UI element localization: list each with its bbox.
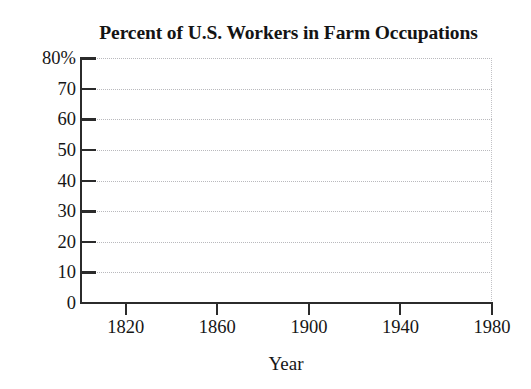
y-axis-tick-label: 60 [2, 110, 76, 129]
y-axis-tick [82, 149, 96, 152]
y-axis-tick [82, 180, 96, 183]
y-axis-tick [82, 271, 96, 274]
gridline [80, 58, 492, 59]
x-axis-title: Year [80, 353, 492, 375]
gridline [80, 242, 492, 243]
x-axis-tick [125, 304, 127, 315]
y-axis-tick-label: 30 [2, 202, 76, 221]
y-axis-tick [82, 57, 96, 60]
y-axis-tick-label: 50 [2, 141, 76, 160]
x-axis-tick [491, 304, 493, 315]
plot-area [80, 58, 492, 303]
x-axis-tick [216, 304, 218, 315]
x-axis-tick [399, 304, 401, 315]
y-axis-tick [82, 88, 96, 91]
gridline [80, 89, 492, 90]
gridline [80, 150, 492, 151]
gridline [80, 181, 492, 182]
y-axis-tick-labels-group: 80%706050403020100 [0, 0, 76, 389]
y-axis-tick-label: 80% [2, 49, 76, 68]
gridline [80, 272, 492, 273]
x-axis-tick-label: 1820 [107, 318, 144, 337]
plot-right-boundary [491, 58, 492, 303]
y-axis-tick [82, 210, 96, 213]
x-axis-tick [308, 304, 310, 315]
x-axis-tick-label: 1900 [290, 318, 327, 337]
y-axis-tick [82, 118, 96, 121]
chart-figure: Percent of U.S. Workers in Farm Occupati… [0, 0, 531, 389]
x-axis-spine [80, 302, 493, 304]
x-axis-tick-label: 1860 [199, 318, 236, 337]
y-axis-tick-label: 0 [2, 294, 76, 313]
chart-title: Percent of U.S. Workers in Farm Occupati… [0, 22, 531, 44]
y-axis-tick-label: 70 [2, 80, 76, 99]
gridline [80, 119, 492, 120]
y-axis-tick-label: 20 [2, 233, 76, 252]
gridline [80, 211, 492, 212]
x-axis-tick-label: 1980 [474, 318, 511, 337]
x-axis-tick-label: 1940 [382, 318, 419, 337]
y-axis-tick-label: 40 [2, 172, 76, 191]
y-axis-tick [82, 241, 96, 244]
y-axis-tick-label: 10 [2, 263, 76, 282]
